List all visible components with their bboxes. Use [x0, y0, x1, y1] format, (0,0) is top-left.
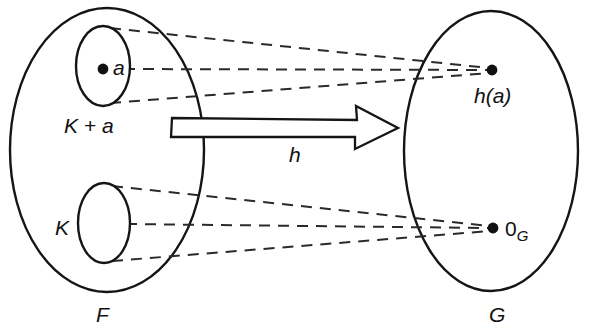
- image-point-label: h(a): [474, 84, 511, 107]
- map-arrow-label: h: [289, 143, 301, 166]
- correspondence-line: [112, 186, 490, 226]
- identity-zero-glyph: 0: [505, 217, 517, 240]
- diagram-canvas: F G K + a K a h(a) h 0G: [0, 0, 590, 334]
- image-point-ha: [487, 65, 498, 76]
- correspondence-line: [110, 73, 489, 103]
- element-a-label: a: [113, 56, 125, 79]
- kernel-label: K: [55, 216, 70, 239]
- coset-label: K + a: [64, 114, 114, 137]
- kernel-subset-ellipse: [78, 183, 130, 263]
- correspondence-line: [126, 224, 490, 228]
- identity-subscript-glyph: G: [517, 227, 529, 244]
- domain-set-label: F: [96, 303, 110, 326]
- codomain-set-label: G: [489, 303, 505, 326]
- correspondence-line: [124, 69, 489, 70]
- element-a-point: [98, 64, 109, 75]
- identity-point-label: 0G: [505, 217, 529, 244]
- math-diagram: F G K + a K a h(a) h 0G: [0, 0, 590, 334]
- identity-point-zero-g: [488, 223, 499, 234]
- codomain-set-ellipse: [404, 11, 578, 291]
